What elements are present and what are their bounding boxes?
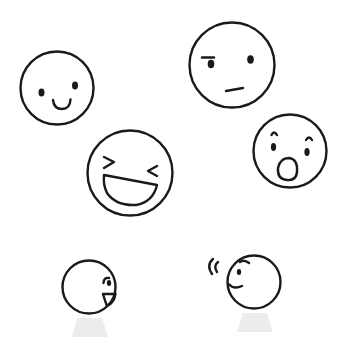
smile-mouth-icon [53,100,71,110]
right-squint-eye-icon [148,166,157,176]
left-brow-icon [272,133,278,136]
open-grin-mouth-icon [104,175,157,205]
right-brow-icon [306,138,312,141]
open-mouth-icon [278,158,297,180]
right-eye-icon [247,55,254,63]
left-eye-icon [39,89,45,97]
profile-listening-face-left-icon [209,256,280,333]
smiling-face-icon [21,52,94,125]
flat-mouth-icon [226,88,243,91]
pedestal-shadow-icon [237,313,273,332]
skeptical-face-icon [190,23,275,108]
left-eye-icon [271,143,276,151]
pedestal-shadow-icon [72,318,108,337]
right-eye-icon [72,82,78,90]
eye-icon [107,280,111,286]
right-eye-icon [304,148,309,156]
left-squint-eye-icon [104,157,114,168]
sound-wave-outer-icon [209,259,213,274]
left-eye-icon [208,60,215,68]
smile-mouth-icon [229,284,243,288]
surprised-face-icon [254,115,327,188]
sound-wave-inner-icon [215,262,218,272]
profile-talking-face-right-icon [63,261,116,338]
eye-icon [237,269,241,275]
illustration-canvas: Emoji faces illustration [0,0,347,349]
laughing-face-icon [88,131,173,216]
faces-svg [0,0,347,349]
eyebrow-icon [240,261,249,263]
